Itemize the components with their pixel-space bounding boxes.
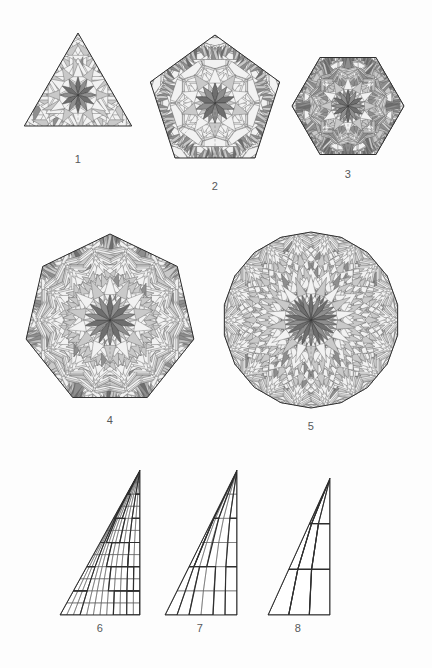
fig-5 (217, 226, 405, 414)
figure-label-1: 1 (63, 153, 93, 165)
figure-label-7: 7 (185, 622, 215, 634)
figure-label-4: 4 (95, 414, 125, 426)
fig-6 (54, 464, 146, 621)
figure-label-5: 5 (296, 420, 326, 432)
fig-7 (159, 464, 243, 621)
figure-label-2: 2 (200, 180, 230, 192)
figure-label-6: 6 (85, 622, 115, 634)
fig-3 (286, 44, 410, 168)
fig-8 (262, 472, 336, 621)
figure-label-8: 8 (283, 622, 313, 634)
figure-plate: 12345678 (0, 0, 432, 668)
fig-4 (18, 228, 202, 412)
fig-1 (10, 27, 146, 163)
fig-2 (141, 29, 289, 177)
figure-label-3: 3 (333, 168, 363, 180)
